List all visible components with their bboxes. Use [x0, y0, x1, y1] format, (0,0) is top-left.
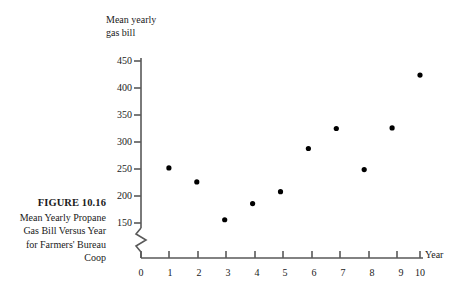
scatter-plot: Mean yearly gas bill Year 450 400 350 30… [0, 0, 453, 296]
data-point [250, 201, 255, 206]
y-axis-title-line-2: gas bill [106, 27, 156, 40]
data-point [222, 217, 227, 222]
y-tick-label-400: 400 [104, 82, 132, 93]
data-point [334, 126, 339, 131]
data-point [166, 165, 171, 170]
data-point-group [166, 72, 422, 222]
x-tick-label-6: 6 [304, 267, 324, 278]
data-point [278, 189, 283, 194]
data-point [194, 179, 199, 184]
y-tick-label-250: 250 [104, 163, 132, 174]
y-tick-label-450: 450 [104, 55, 132, 66]
x-tick-label-10: 10 [410, 267, 430, 278]
y-tick-label-200: 200 [104, 190, 132, 201]
data-point [390, 125, 395, 130]
x-tick-label-3: 3 [218, 267, 238, 278]
y-tick-label-150: 150 [104, 217, 132, 228]
x-tick-label-5: 5 [275, 267, 295, 278]
x-tick-label-8: 8 [362, 267, 382, 278]
plot-canvas [0, 0, 453, 296]
figure-container: FIGURE 10.16 Mean Yearly Propane Gas Bil… [0, 0, 453, 296]
x-tick-label-0: 0 [131, 267, 151, 278]
data-point [306, 146, 311, 151]
x-tick-label-9: 9 [391, 267, 411, 278]
data-point [362, 167, 367, 172]
x-tick-label-2: 2 [189, 267, 209, 278]
y-axis-title-line-1: Mean yearly [106, 14, 156, 27]
x-tick-label-1: 1 [160, 267, 180, 278]
x-tick-label-7: 7 [333, 267, 353, 278]
y-axis-title: Mean yearly gas bill [106, 14, 156, 39]
y-tick-label-350: 350 [104, 109, 132, 120]
x-tick-label-4: 4 [247, 267, 267, 278]
data-point [417, 72, 422, 77]
y-tick-label-300: 300 [104, 136, 132, 147]
x-axis-title: Year [425, 249, 443, 262]
